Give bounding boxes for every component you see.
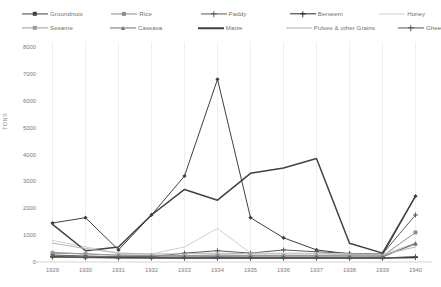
x-tick-label: 1937 — [303, 267, 331, 274]
x-tick-label: 1939 — [369, 267, 397, 274]
x-tick-label: 1934 — [204, 267, 232, 274]
x-tick-label: 1931 — [105, 267, 133, 274]
x-tick-label: 1940 — [402, 267, 430, 274]
x-tick-label: 1938 — [336, 267, 364, 274]
x-tick-label: 1930 — [72, 267, 100, 274]
x-tick-label: 1933 — [171, 267, 199, 274]
x-tick-label: 1932 — [138, 267, 166, 274]
x-tick-label: 1936 — [270, 267, 298, 274]
x-tick-label: 1929 — [39, 267, 67, 274]
x-tick-label: 1935 — [237, 267, 265, 274]
